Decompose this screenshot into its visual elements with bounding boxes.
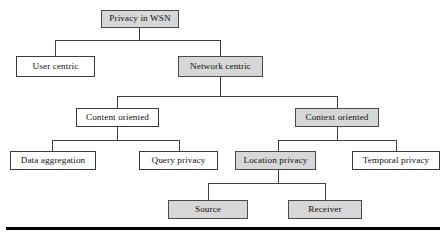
- connector-content-to-dataagg: [52, 140, 53, 151]
- node-label: Privacy in WSN: [107, 14, 172, 23]
- node-label: Receiver: [306, 205, 343, 214]
- connector-content-to-query: [179, 140, 180, 151]
- node-label: User centric: [31, 62, 81, 71]
- node-query-privacy[interactable]: Query privacy: [139, 151, 218, 170]
- node-label: Source: [193, 205, 223, 214]
- connector-context-to-location: [278, 140, 279, 151]
- node-label: Temporal privacy: [361, 156, 432, 165]
- connector-location-bus: [208, 183, 325, 184]
- connector-root-bus: [55, 40, 221, 41]
- node-user-centric[interactable]: User centric: [16, 56, 95, 77]
- connector-context-stem: [337, 127, 338, 140]
- connector-root-to-user: [55, 40, 56, 56]
- connector-location-stem: [278, 170, 279, 183]
- connector-root-to-network: [220, 40, 221, 56]
- node-content-oriented[interactable]: Content oriented: [76, 108, 159, 127]
- node-context-oriented[interactable]: Context oriented: [295, 108, 379, 127]
- node-location-privacy[interactable]: Location privacy: [235, 151, 316, 170]
- node-label: Data aggregation: [19, 156, 88, 165]
- node-source[interactable]: Source: [168, 200, 248, 219]
- node-temporal-privacy[interactable]: Temporal privacy: [352, 151, 440, 170]
- node-network-centric[interactable]: Network centric: [178, 56, 263, 77]
- node-label: Location privacy: [241, 156, 309, 165]
- connector-location-to-source: [208, 183, 209, 200]
- node-receiver[interactable]: Receiver: [288, 200, 362, 219]
- connector-root-stem: [139, 27, 140, 40]
- node-data-aggregation[interactable]: Data aggregation: [10, 151, 96, 170]
- node-label: Query privacy: [149, 156, 207, 165]
- connector-context-to-temporal: [396, 140, 397, 151]
- node-label: Content oriented: [84, 113, 151, 122]
- connector-network-stem: [220, 77, 221, 96]
- node-label: Context oriented: [303, 113, 370, 122]
- node-privacy-in-wsn[interactable]: Privacy in WSN: [101, 10, 179, 28]
- bottom-rule: [6, 227, 440, 230]
- connector-context-bus: [278, 140, 396, 141]
- connector-network-bus: [117, 96, 337, 97]
- node-label: Network centric: [188, 62, 253, 71]
- connector-content-bus: [52, 140, 179, 141]
- diagram-canvas: Privacy in WSN User centric Network cent…: [0, 0, 446, 243]
- connector-content-stem: [117, 127, 118, 140]
- connector-location-to-receiver: [325, 183, 326, 200]
